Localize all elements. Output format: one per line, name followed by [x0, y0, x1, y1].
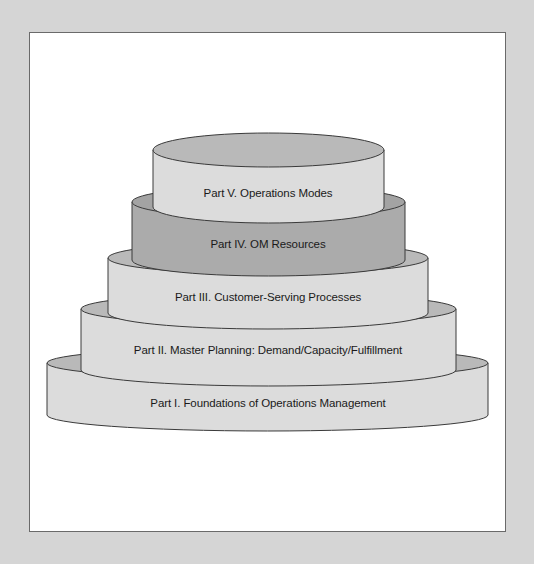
tier-5-label: Part V. Operations Modes [204, 187, 333, 199]
tier-1-label: Part I. Foundations of Operations Manage… [150, 397, 385, 409]
tier-3-label: Part III. Customer-Serving Processes [175, 291, 361, 303]
tier-2-label: Part II. Master Planning: Demand/Capacit… [134, 344, 402, 356]
cylinder-stack [0, 0, 534, 564]
tier-4-label: Part IV. OM Resources [210, 238, 325, 250]
tier-5-cylinder [153, 133, 384, 223]
